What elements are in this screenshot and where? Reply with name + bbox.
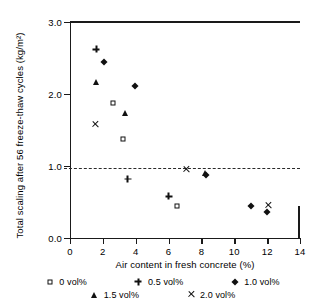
data-point-plus [93,46,100,53]
data-point-open-square [110,101,115,106]
x-tick-label: 12 [262,246,273,257]
legend-marker-cross [187,291,194,298]
legend-label: 1.5 vol% [104,290,139,300]
legend-label: 0 vol% [59,277,87,287]
x-tick [300,238,301,244]
x-tick [70,238,71,244]
data-point-filled-triangle [93,79,99,85]
y-tick [64,22,70,23]
data-point-cross [182,166,189,173]
y-tick-label: 0.0 [0,233,62,244]
x-tick-label: 8 [199,246,204,257]
y-tick-label: 2.0 [0,89,62,100]
x-tick-label: 10 [229,246,240,257]
y-axis-title: Total scaling after 56 freeze-thaw cycle… [14,21,25,251]
x-tick-label: 6 [166,246,171,257]
y-tick [64,166,70,167]
legend-marker-cross [185,289,196,300]
legend-label: 2.0 vol% [200,290,235,300]
legend-marker-filled-diamond [229,276,240,287]
legend-marker-open-square [44,276,55,287]
axis-top-cap [70,21,300,23]
data-point-cross [264,202,271,209]
legend-item[interactable]: 0 vol% [44,276,87,287]
data-point-filled-triangle [122,110,128,116]
y-tick-label: 1.0 [0,161,62,172]
legend-marker-plus [135,278,142,285]
legend-row: 1.5 vol%2.0 vol% [0,288,324,301]
data-point-plus [124,175,131,182]
x-tick-label: 14 [295,246,306,257]
y-tick-label: 3.0 [0,17,62,28]
legend-marker-plus [133,276,144,287]
y-tick [64,94,70,95]
legend-item[interactable]: 1.0 vol% [229,276,279,287]
x-tick [267,238,268,244]
legend-item[interactable]: 1.5 vol% [89,289,139,300]
legend-marker-open-square [47,279,52,284]
legend-item[interactable]: 0.5 vol% [133,276,183,287]
data-point-plus [165,193,172,200]
x-tick [103,238,104,244]
x-tick-label: 0 [67,246,72,257]
x-axis-title: Air content in fresh concrete (%) [70,259,300,270]
x-tick-label: 4 [133,246,138,257]
x-tick [136,238,137,244]
axis-right-cap [298,206,300,239]
data-point-filled-triangle [202,170,208,176]
legend-label: 0.5 vol% [148,277,183,287]
data-point-cross [92,121,99,128]
x-tick [169,238,170,244]
scatter-chart-figure: 0.01.02.03.0 02468101214 Air content in … [0,0,324,307]
x-tick [234,238,235,244]
legend-marker-filled-diamond [231,278,238,285]
x-tick [201,238,202,244]
chart-legend: 0 vol%0.5 vol%1.0 vol%1.5 vol%2.0 vol% [0,275,324,301]
legend-marker-filled-triangle [91,292,97,298]
data-point-open-square [120,136,125,141]
data-point-open-square [174,204,179,209]
legend-item[interactable]: 2.0 vol% [185,289,235,300]
legend-marker-filled-triangle [89,289,100,300]
legend-row: 0 vol%0.5 vol%1.0 vol% [0,275,324,288]
x-tick-label: 2 [100,246,105,257]
legend-label: 1.0 vol% [244,277,279,287]
